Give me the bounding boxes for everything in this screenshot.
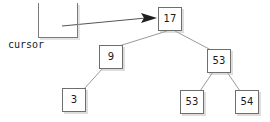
tree-node-53-right-value: 53 [212, 56, 225, 66]
edge-53-to-54 [227, 72, 240, 91]
tree-node-53-leaf[interactable]: 53 [180, 90, 204, 114]
edge-17-to-9 [119, 31, 167, 46]
edge-9-to-3 [84, 68, 103, 89]
diagram-canvas: cursor 17 9 53 3 53 54 [0, 0, 270, 122]
tree-node-54-value: 54 [240, 97, 253, 107]
cursor-label: cursor [8, 40, 44, 50]
edge-53-to-53leaf [200, 72, 213, 91]
tree-node-9[interactable]: 9 [99, 45, 123, 69]
tree-node-3-value: 3 [71, 95, 78, 105]
tree-node-53-leaf-value: 53 [185, 97, 198, 107]
cursor-box [38, 3, 78, 38]
tree-node-3[interactable]: 3 [62, 88, 86, 112]
tree-node-9-value: 9 [108, 52, 115, 62]
edge-17-to-53 [175, 31, 211, 50]
tree-node-54[interactable]: 54 [235, 90, 259, 114]
tree-node-17[interactable]: 17 [158, 7, 182, 31]
tree-node-17-value: 17 [163, 14, 176, 24]
tree-node-53-right[interactable]: 53 [207, 49, 231, 73]
